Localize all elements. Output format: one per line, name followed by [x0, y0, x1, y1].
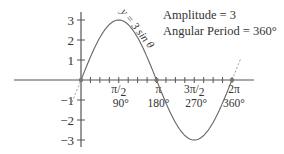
x-tick-label: 3π/2: [184, 83, 205, 98]
x-tick-degrees: 270°: [185, 97, 207, 109]
y-tick-label: −2: [60, 113, 74, 128]
zero-crossing-point: [79, 78, 83, 82]
y-tick-label: −1: [60, 93, 74, 108]
x-tick-degrees: 360°: [223, 97, 245, 109]
function-label: y = 3 sin θ: [118, 5, 157, 51]
sine-chart: 321−1−2−3 π/290°π180°3π/2270°2π360° y = …: [0, 0, 284, 154]
y-tick-label: 1: [68, 53, 75, 68]
x-tick-degrees: 90°: [113, 97, 130, 109]
x-tick-label: π/2: [111, 83, 126, 98]
y-tick-label: 2: [68, 33, 75, 48]
y-tick-label: −3: [60, 133, 74, 148]
curve-extension-dashed: [232, 58, 241, 80]
zero-crossing-point: [154, 78, 158, 82]
annotation-period: Angular Period = 360°: [163, 24, 277, 38]
annotation-amplitude: Amplitude = 3: [163, 8, 236, 22]
y-tick-label: 3: [68, 13, 75, 28]
zero-crossing-point: [230, 78, 234, 82]
